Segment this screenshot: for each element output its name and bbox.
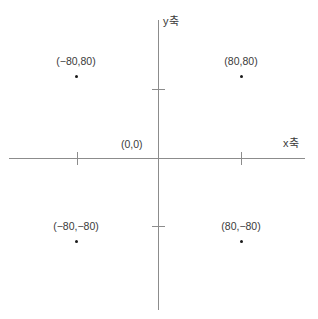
data-point-label: (−80,−80)	[53, 220, 99, 232]
data-point-label: (−80,80)	[56, 55, 95, 67]
y-axis-tick-positive	[152, 89, 165, 90]
origin-label: (0,0)	[121, 138, 143, 150]
data-point-marker	[75, 240, 78, 243]
data-point-label: (80,80)	[224, 55, 257, 67]
y-axis-line	[158, 20, 159, 310]
x-axis-line	[9, 158, 305, 159]
x-axis-tick-negative	[77, 152, 78, 165]
data-point-marker	[75, 75, 78, 78]
coordinate-plane-chart: y축 x축 (0,0) (−80,80) (80,80) (−80,−80) (…	[0, 0, 318, 319]
y-axis-tick-negative	[152, 226, 165, 227]
x-axis-title: x축	[283, 134, 299, 150]
data-point-label: (80,−80)	[221, 220, 260, 232]
y-axis-title: y축	[163, 12, 179, 28]
data-point-marker	[240, 75, 243, 78]
data-point-marker	[240, 240, 243, 243]
x-axis-tick-positive	[241, 152, 242, 165]
